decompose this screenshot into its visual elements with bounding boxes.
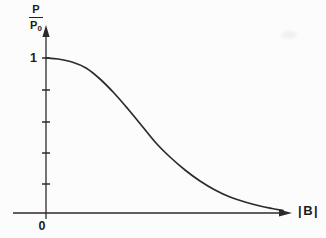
depolarization-curve — [46, 58, 283, 211]
x-axis-label-B: |B| — [298, 204, 319, 217]
y-axis-label-fraction: P P0 — [25, 4, 47, 31]
origin-label-0: 0 — [35, 220, 49, 233]
fraction-denominator: P0 — [30, 18, 42, 31]
figure: P P0 1 0 |B| — [0, 0, 326, 238]
fraction-numerator: P — [29, 4, 42, 18]
y-tick-label-1: 1 — [24, 52, 37, 65]
scan-smudge-artifact — [281, 31, 297, 39]
figure-canvas — [0, 0, 326, 238]
fraction-denominator-subscript: 0 — [37, 24, 41, 33]
